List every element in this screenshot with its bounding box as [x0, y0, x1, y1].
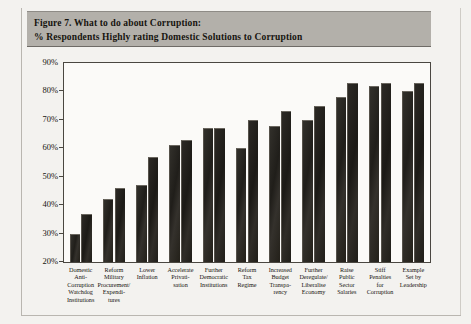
bar: [236, 148, 247, 262]
x-category-label-line: tures: [94, 296, 133, 303]
bar: [103, 199, 114, 262]
bar: [70, 234, 81, 262]
bar: [169, 145, 180, 262]
bar-group: [64, 63, 97, 262]
y-tick-mark: [59, 204, 64, 205]
bar: [281, 111, 292, 262]
x-category-label-line: Procurement/: [94, 281, 133, 288]
y-tick-mark: [59, 119, 64, 120]
y-tick-mark: [59, 147, 64, 148]
bar-group: [197, 63, 230, 262]
y-tick-label: 20%: [24, 256, 58, 266]
y-tick-label: 70%: [24, 114, 58, 124]
bar-group: [164, 63, 197, 262]
bar: [81, 214, 92, 262]
bar: [181, 140, 192, 262]
y-tick-label: 80%: [24, 85, 58, 95]
y-tick-label: 90%: [24, 57, 58, 67]
bar-group: [397, 63, 430, 262]
bar: [248, 120, 259, 262]
y-tick-mark: [59, 261, 64, 262]
bar: [115, 188, 126, 262]
bar: [314, 106, 325, 262]
bar: [336, 97, 347, 262]
bar: [369, 86, 380, 262]
y-tick-label: 30%: [24, 228, 58, 238]
y-tick-mark: [59, 176, 64, 177]
y-axis-tick-labels: 90%80%70%60%50%40%30%20%: [18, 62, 58, 263]
x-category-label-line: Leadership: [394, 281, 433, 288]
figure-title-banner: Figure 7. What to do about Corruption: %…: [27, 11, 431, 47]
page-rule-right: [460, 8, 461, 316]
bar-chart-plot-area: [64, 63, 430, 262]
bar: [148, 157, 159, 262]
bar: [214, 128, 225, 262]
x-category-label: ExampleSet byLeadership: [394, 266, 433, 288]
y-tick-label: 60%: [24, 142, 58, 152]
x-category-label-line: Example: [394, 266, 433, 273]
y-tick-mark: [59, 90, 64, 91]
x-category-label-line: Corruption: [360, 288, 399, 295]
bar: [402, 91, 413, 262]
figure-title-line-1: Figure 7. What to do about Corruption:: [34, 16, 431, 30]
bar: [203, 128, 214, 262]
x-category-label-line: Set by: [394, 273, 433, 280]
bar: [414, 83, 425, 262]
bar-group: [264, 63, 297, 262]
y-tick-label: 40%: [24, 199, 58, 209]
bar: [302, 120, 313, 262]
scanned-page: Figure 7. What to do about Corruption: %…: [0, 0, 471, 324]
figure-title-line-2: % Respondents Highly rating Domestic Sol…: [34, 30, 431, 44]
y-tick-mark: [59, 233, 64, 234]
bar: [136, 185, 147, 262]
bar-group: [131, 63, 164, 262]
bar-group: [330, 63, 363, 262]
bar-group: [230, 63, 263, 262]
bar-group: [297, 63, 330, 262]
x-category-label-line: Expendi-: [94, 288, 133, 295]
bar-group: [363, 63, 396, 262]
bar: [269, 126, 280, 262]
bar: [381, 83, 392, 262]
bar-group: [97, 63, 130, 262]
x-axis-category-labels: DomesticAnti-CorruptionWatchdogInstituti…: [64, 266, 430, 316]
y-tick-label: 50%: [24, 171, 58, 181]
bar: [347, 83, 358, 262]
